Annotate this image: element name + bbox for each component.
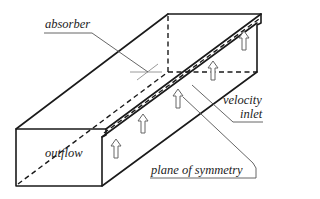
- absorber-leader: [44, 33, 148, 72]
- velocity-label: velocity: [223, 94, 262, 107]
- inlet-label: inlet: [240, 108, 262, 121]
- absorber-label: absorber: [45, 18, 90, 31]
- arrow-up-icon: [208, 61, 218, 80]
- plane-of-symmetry-label: plane of symmetry: [151, 164, 243, 177]
- arrow-up-icon: [138, 114, 148, 133]
- arrow-up-icon: [239, 31, 249, 50]
- arrow-up-icon: [173, 89, 183, 108]
- outflow-label: outflow: [45, 147, 83, 160]
- absorber-symbol: [130, 64, 162, 80]
- arrow-up-icon: [111, 139, 121, 158]
